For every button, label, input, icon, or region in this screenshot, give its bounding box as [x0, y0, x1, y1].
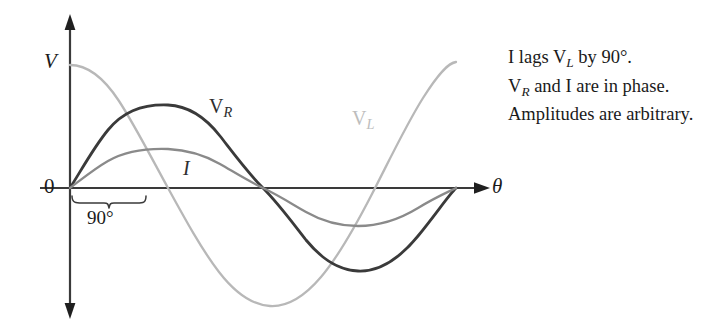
annotation-line-2-text-b: are in phase.	[572, 76, 670, 96]
curve-label-vl-subscript: L	[366, 116, 374, 132]
curve-label-vl-base: V	[352, 107, 366, 129]
annotation-line-1-text-b: by 90°.	[574, 47, 632, 67]
annotation-line-1-subscript: L	[566, 55, 573, 70]
x-axis-label: θ	[492, 176, 502, 197]
annotation-line-1: I lags VL by 90°.	[508, 44, 693, 73]
curve-label-vl: VL	[352, 108, 374, 131]
annotation-block: I lags VL by 90°. VR and I are in phase.…	[508, 44, 693, 127]
annotation-line-1-text-a: lags	[514, 47, 553, 67]
annotation-line-2: VR and I are in phase.	[508, 73, 693, 102]
annotation-line-3: Amplitudes are arbitrary.	[508, 101, 693, 127]
annotation-line-2-subscript: R	[521, 83, 529, 98]
y-axis	[65, 14, 76, 319]
origin-label: 0	[44, 176, 55, 197]
curve-label-vr-subscript: R	[223, 104, 232, 120]
curve-vl	[70, 62, 456, 306]
curve-label-vr: VR	[209, 96, 232, 119]
ninety-degree-label: 90°	[87, 208, 114, 227]
annotation-line-2-symbol-v: V	[508, 76, 521, 96]
curve-label-i: I	[183, 158, 190, 178]
annotation-line-1-symbol-v: V	[553, 47, 566, 67]
figure-container: V 0 θ 90° VR I VL I lags VL by 90°. VR a…	[0, 0, 719, 328]
annotation-line-2-text-a: and	[530, 76, 566, 96]
curve-label-vr-base: V	[209, 95, 223, 117]
y-axis-label: V	[44, 51, 57, 72]
